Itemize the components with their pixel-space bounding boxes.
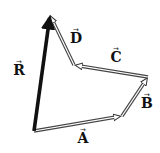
- vector-a-label: → A: [77, 126, 90, 146]
- vector-r-label: → R: [13, 58, 25, 78]
- svg-text:C: C: [110, 49, 121, 65]
- svg-text:B: B: [141, 95, 153, 111]
- svg-text:D: D: [70, 30, 82, 46]
- svg-text:R: R: [13, 62, 25, 78]
- vector-c-label: → C: [110, 45, 121, 65]
- vector-diagram: → A → B → C → D → R: [0, 0, 160, 153]
- vector-a-arrow: [34, 116, 121, 131]
- vector-c-arrow: [75, 65, 148, 77]
- svg-text:A: A: [77, 130, 90, 146]
- vector-r-resultant-arrow: [34, 18, 50, 131]
- vector-b-label: → B: [141, 91, 153, 111]
- vector-d-label: → D: [70, 26, 82, 46]
